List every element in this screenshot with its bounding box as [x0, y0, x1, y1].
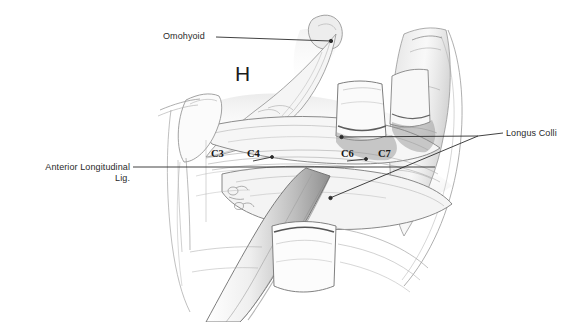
label-omohyoid: Omohyoid — [163, 31, 205, 42]
label-vertebra-c6: C6 — [341, 148, 354, 159]
label-vertebra-c7: C7 — [378, 148, 391, 159]
label-vertebra-c3: C3 — [211, 148, 224, 159]
label-anterior-longitudinal-lig: Anterior Longitudinal Lig. — [8, 162, 130, 184]
figure-canvas: Omohyoid Longus Colli Anterior Longitudi… — [0, 0, 573, 322]
anatomical-illustration — [0, 0, 573, 322]
graft-site — [272, 222, 336, 293]
label-anterior-longitudinal-lig-line2: Lig. — [115, 173, 130, 183]
label-vertebra-c4: C4 — [247, 148, 260, 159]
label-hyoid-marker: H — [235, 62, 251, 86]
label-longus-colli: Longus Colli — [506, 128, 557, 139]
leader-longus-stem — [478, 133, 503, 136]
label-anterior-longitudinal-lig-line1: Anterior Longitudinal — [45, 162, 130, 172]
